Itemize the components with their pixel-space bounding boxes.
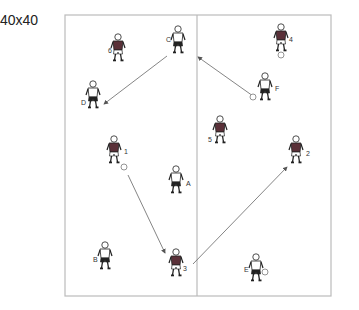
player-label: 2 (306, 150, 310, 157)
player-head-icon (278, 24, 284, 30)
player-shorts-icon (114, 50, 123, 54)
player-label: E (244, 266, 249, 273)
player-shirt-icon (251, 261, 261, 270)
player-5: 5 (208, 116, 227, 144)
player-label: 6 (108, 47, 112, 54)
player-6: 6 (108, 34, 125, 62)
player-label: D (81, 99, 86, 106)
pass-arrows (104, 56, 287, 264)
player-label: 5 (208, 136, 212, 143)
drill-diagram: C64DF512AB3E (0, 0, 359, 310)
player-shirt-icon (173, 33, 183, 42)
players: C64DF512AB3E (81, 24, 310, 282)
player-shirt-icon (109, 143, 119, 152)
player-head-icon (111, 136, 117, 142)
player-c: C (166, 26, 185, 54)
player-3: 3 (169, 249, 187, 276)
player-shorts-icon (172, 265, 181, 269)
player-head-icon (173, 249, 179, 255)
player-head-icon (293, 136, 299, 142)
ball-icon (250, 94, 256, 100)
player-shorts-icon (174, 42, 183, 46)
player-4: 4 (274, 24, 293, 52)
player-shirt-icon (215, 123, 225, 132)
player-1: 1 (107, 136, 128, 164)
player-shirt-icon (291, 143, 301, 152)
player-a: A (169, 166, 191, 194)
player-shirt-icon (113, 41, 123, 50)
player-f: F (258, 73, 279, 101)
player-shirt-icon (171, 173, 181, 182)
player-head-icon (115, 34, 121, 40)
ball-icon (262, 269, 268, 275)
player-label: B (93, 256, 98, 263)
pass-arrow (198, 57, 253, 96)
player-label: 1 (124, 148, 128, 155)
pass-arrow (193, 167, 287, 264)
player-head-icon (262, 73, 268, 79)
player-shirt-icon (260, 80, 270, 89)
player-shirt-icon (276, 31, 286, 40)
player-shorts-icon (110, 152, 119, 156)
player-label: A (186, 180, 191, 187)
player-shorts-icon (292, 152, 301, 156)
player-shorts-icon (277, 40, 286, 44)
player-label: C (166, 36, 171, 43)
balls (121, 52, 284, 275)
player-shorts-icon (172, 182, 181, 186)
player-head-icon (102, 242, 108, 248)
player-shorts-icon (252, 270, 261, 274)
player-head-icon (217, 116, 223, 122)
player-head-icon (90, 81, 96, 87)
player-b: B (93, 242, 112, 269)
player-e: E (244, 254, 263, 281)
pass-arrow (128, 175, 165, 253)
ball-icon (121, 164, 127, 170)
pass-arrow (104, 56, 167, 104)
player-d: D (81, 81, 100, 109)
ball-icon (278, 52, 284, 58)
player-label: F (275, 85, 279, 92)
player-shorts-icon (101, 258, 110, 262)
player-2: 2 (289, 136, 310, 164)
player-shorts-icon (216, 132, 225, 136)
player-shorts-icon (89, 97, 98, 101)
player-shirt-icon (171, 256, 181, 265)
player-head-icon (253, 254, 259, 260)
player-head-icon (175, 26, 181, 32)
player-shorts-icon (261, 89, 270, 93)
player-label: 4 (289, 36, 293, 43)
player-head-icon (173, 166, 179, 172)
player-shirt-icon (100, 249, 110, 258)
player-label: 3 (183, 265, 187, 272)
player-shirt-icon (88, 88, 98, 97)
